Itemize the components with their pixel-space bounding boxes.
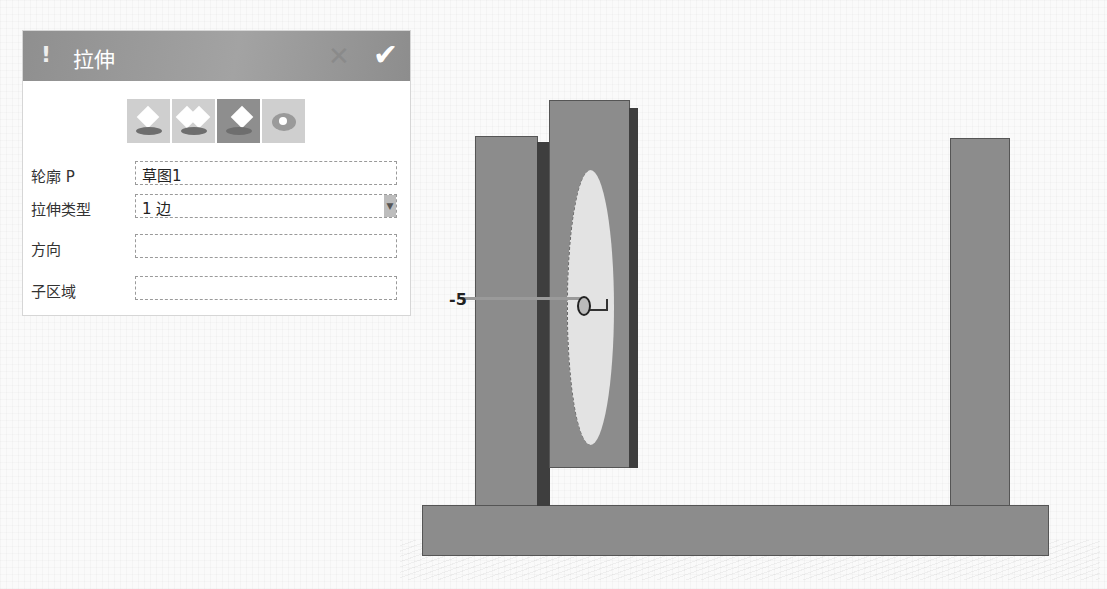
extrude-drag-handle[interactable] — [577, 296, 591, 316]
close-icon[interactable]: ✕ — [328, 41, 350, 71]
extrude-revolve-icon[interactable] — [262, 99, 305, 143]
warning-icon: ! — [41, 42, 51, 67]
chevron-down-icon[interactable]: ▼ — [384, 195, 396, 217]
extrude-type-value: 1 边 — [142, 200, 171, 218]
extrude-one-side-icon[interactable] — [127, 99, 170, 143]
extrude-dialog: ! 拉伸 ✕ ✔ 轮廓 P 草图1 拉伸类型 1 边 ▼ 方向 子区域 — [22, 30, 411, 316]
extrude-asymmetric-icon[interactable] — [217, 99, 260, 143]
extrude-type-row: 拉伸类型 1 边 ▼ — [31, 194, 401, 220]
ok-check-icon[interactable]: ✔ — [373, 37, 398, 72]
extrude-type-dropdown[interactable]: 1 边 ▼ — [135, 194, 397, 218]
subregion-label: 子区域 — [31, 280, 76, 301]
direction-label: 方向 — [31, 238, 61, 259]
extrude-mode-icons — [127, 99, 305, 143]
base-plate[interactable] — [422, 505, 1049, 556]
dialog-header: ! 拉伸 ✕ ✔ — [23, 31, 410, 81]
profile-label: 轮廓 P — [31, 165, 75, 186]
subregion-row: 子区域 — [31, 276, 401, 302]
left-pillar[interactable] — [475, 136, 538, 506]
profile-row: 轮廓 P 草图1 — [31, 161, 401, 187]
middle-panel-side — [629, 108, 638, 468]
extrude-type-label: 拉伸类型 — [31, 198, 91, 219]
subregion-field[interactable] — [135, 276, 397, 300]
extrude-dimension-line — [460, 297, 582, 300]
right-pillar[interactable] — [950, 138, 1010, 506]
dialog-title: 拉伸 — [73, 43, 115, 73]
extrude-two-sides-icon[interactable] — [172, 99, 215, 143]
profile-field[interactable]: 草图1 — [135, 161, 397, 185]
dimension-end-tick — [590, 299, 608, 311]
direction-row: 方向 — [31, 234, 401, 260]
direction-field[interactable] — [135, 234, 397, 258]
dimension-start-label[interactable]: -5 — [449, 290, 467, 309]
